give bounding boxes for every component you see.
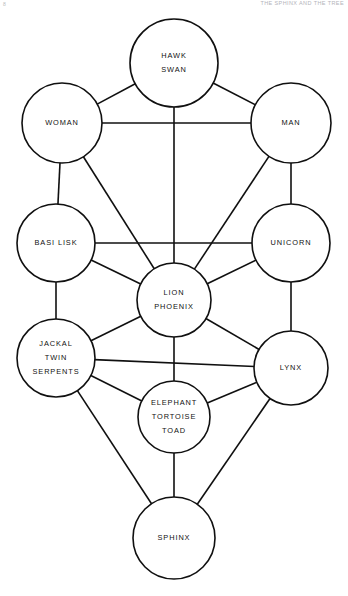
node-label-jackal: TWIN	[45, 353, 67, 362]
node-lion[interactable]: LIONPHOENIX	[137, 263, 211, 337]
tree-of-life-diagram: HAWKSWANWOMANMANBASI LISKUNICORNLIONPHOE…	[0, 0, 348, 596]
node-label-elephant: TORTOISE	[152, 412, 197, 421]
node-unicorn[interactable]: UNICORN	[252, 204, 330, 282]
node-label-lynx: LYNX	[280, 363, 302, 372]
node-label-lion: LION	[164, 288, 185, 297]
scanned-page: 8 THE SPHINX AND THE TREE HAWKSWANWOMANM…	[0, 0, 348, 596]
node-basilisk[interactable]: BASI LISK	[17, 204, 95, 282]
node-elephant[interactable]: ELEPHANTTORTOISETOAD	[138, 381, 210, 453]
node-sphinx[interactable]: SPHINX	[133, 497, 215, 579]
node-label-hawk: SWAN	[161, 65, 187, 74]
edge-hawk-woman	[97, 83, 136, 104]
edge-jackal-elephant	[90, 375, 142, 401]
node-label-basilisk: BASI LISK	[34, 238, 77, 247]
node-label-unicorn: UNICORN	[271, 238, 312, 247]
node-label-lion: PHOENIX	[154, 302, 194, 311]
edge-lion-jackal	[90, 316, 141, 341]
node-label-woman: WOMAN	[45, 118, 79, 127]
node-circle-lion	[137, 263, 211, 337]
node-label-jackal: JACKAL	[39, 339, 72, 348]
node-lynx[interactable]: LYNX	[254, 331, 328, 405]
node-circle-hawk	[130, 19, 218, 107]
node-hawk[interactable]: HAWKSWAN	[130, 19, 218, 107]
node-jackal[interactable]: JACKALTWINSERPENTS	[17, 319, 95, 397]
edge-woman-basilisk	[58, 162, 60, 204]
node-label-sphinx: SPHINX	[158, 533, 191, 542]
edge-unicorn-lion	[207, 260, 257, 284]
edge-hawk-man	[213, 83, 256, 105]
edge-lion-lynx	[205, 318, 259, 349]
node-label-hawk: HAWK	[161, 51, 187, 60]
edge-basilisk-lion	[91, 260, 142, 284]
edge-lynx-elephant	[207, 382, 258, 403]
node-woman[interactable]: WOMAN	[22, 83, 102, 163]
node-label-elephant: TOAD	[162, 426, 186, 435]
node-label-jackal: SERPENTS	[32, 367, 79, 376]
node-man[interactable]: MAN	[251, 83, 331, 163]
node-label-elephant: ELEPHANT	[151, 398, 197, 407]
node-label-man: MAN	[281, 118, 300, 127]
